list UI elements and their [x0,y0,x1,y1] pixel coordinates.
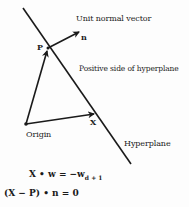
origin-point [24,122,28,126]
equation-x-dot-w-main: X • w = −w [29,169,85,179]
x-label: X [90,117,96,127]
equation-x-minus-p-dot-n: (X − P) • n = 0 [4,187,79,199]
origin-to-x-vector [26,114,94,124]
equation-x-dot-w-subscript: d + 1 [85,174,103,181]
hyperplane-label: Hyperplane [124,139,171,149]
hyperplane-diagram: Unit normal vector n P Positive side of … [0,0,189,207]
unit-normal-vector-label: Unit normal vector [76,14,151,24]
p-point [47,47,50,50]
positive-side-label: Positive side of hyperplane [79,64,179,74]
origin-to-p-vector [26,51,47,124]
hyperplane-line [23,8,131,164]
unit-normal-vector-arrow [48,32,79,48]
p-label: P [37,42,43,52]
origin-label: Origin [26,130,51,140]
n-label: n [81,32,87,42]
equation-x-dot-w: X • w = −wd + 1 [29,168,102,184]
